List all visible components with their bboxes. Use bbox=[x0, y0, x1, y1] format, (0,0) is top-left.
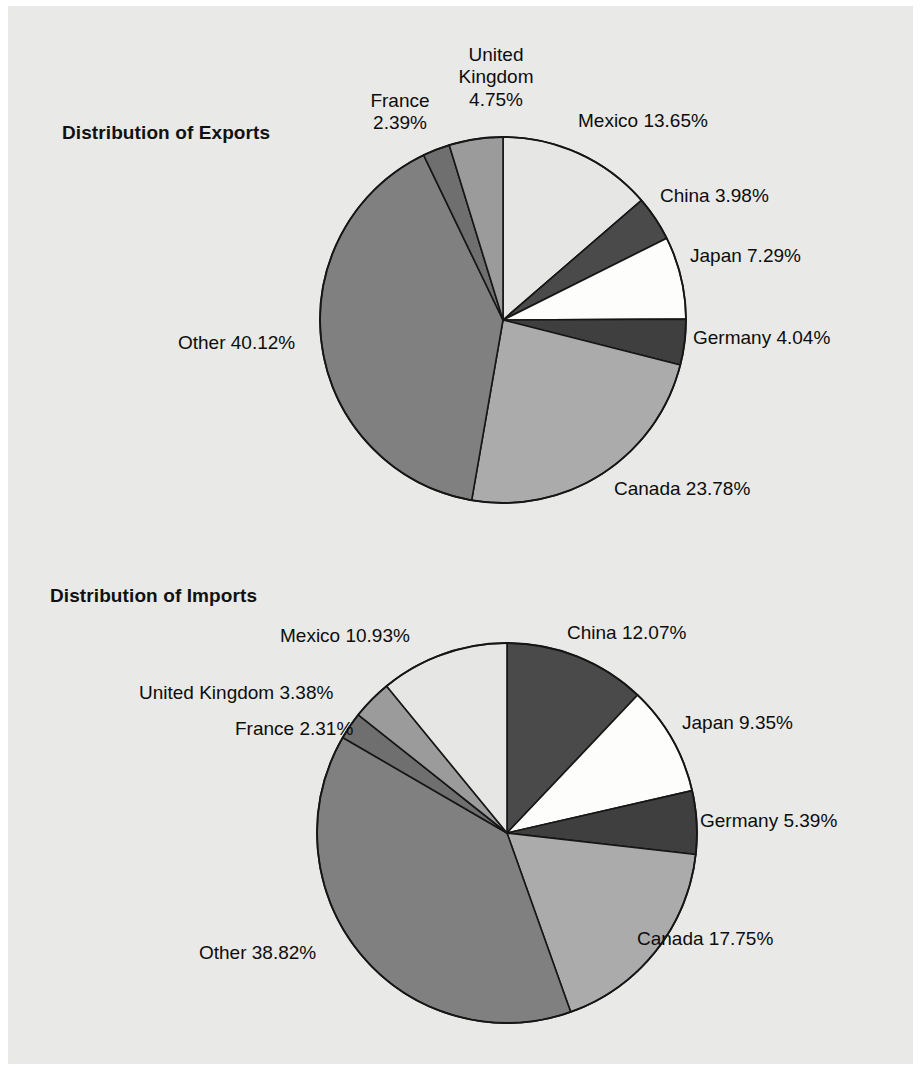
pie-slice-united-kingdom[interactable] bbox=[358, 686, 507, 833]
imports-label-japan: Japan 9.35% bbox=[682, 712, 793, 734]
imports-pie-chart: Distribution of Imports Mexico 10.93% Un… bbox=[0, 0, 921, 1072]
imports-label-canada: Canada 17.75% bbox=[637, 928, 773, 950]
pie-slice-france[interactable] bbox=[343, 715, 507, 833]
pie-slice-germany[interactable] bbox=[507, 791, 697, 855]
imports-label-united-kingdom: United Kingdom 3.38% bbox=[139, 682, 333, 704]
pie-slice-mexico[interactable] bbox=[387, 643, 507, 833]
imports-label-other: Other 38.82% bbox=[199, 942, 316, 964]
pie-slice-canada[interactable] bbox=[507, 833, 696, 1012]
figure-page: Distribution of Exports Mexico 13.65% Ch… bbox=[0, 0, 921, 1072]
pie-slice-japan[interactable] bbox=[507, 695, 692, 833]
pie-outline bbox=[317, 643, 697, 1023]
pie-slice-other[interactable] bbox=[317, 738, 571, 1023]
imports-label-mexico: Mexico 10.93% bbox=[280, 625, 410, 647]
imports-chart-title: Distribution of Imports bbox=[50, 585, 257, 607]
imports-label-france: France 2.31% bbox=[235, 718, 353, 740]
imports-label-china: China 12.07% bbox=[567, 622, 686, 644]
pie-slice-china[interactable] bbox=[507, 643, 638, 833]
imports-pie-graphic bbox=[0, 0, 921, 1072]
imports-label-germany: Germany 5.39% bbox=[700, 810, 837, 832]
